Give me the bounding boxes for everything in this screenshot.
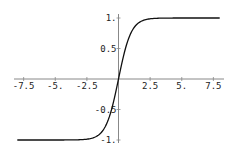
- y-tick-label: -0.5: [95, 105, 117, 115]
- x-tick-label: 5.: [176, 81, 187, 91]
- plot: -7.5-5.-2.52.55.7.51.0.5-0.5-1.: [0, 0, 235, 151]
- y-tick-label: -1.: [100, 135, 116, 145]
- x-tick-label: -7.5: [13, 81, 35, 91]
- x-tick-label: 7.5: [205, 81, 221, 91]
- y-tick-label: 0.5: [100, 44, 116, 54]
- x-tick-label: -2.5: [76, 81, 98, 91]
- y-tick-label: 1.: [106, 13, 117, 23]
- x-tick-label: -5.: [47, 81, 63, 91]
- x-tick-label: 2.5: [142, 81, 158, 91]
